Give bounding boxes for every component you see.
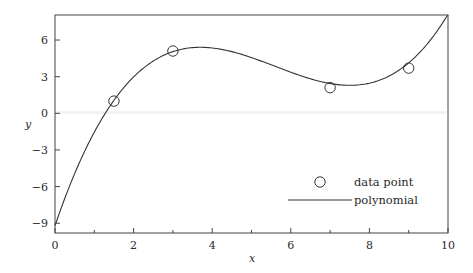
x-tick-label: 4	[209, 239, 216, 252]
x-tick-label: 6	[287, 239, 294, 252]
legend: data point polynomial	[288, 175, 418, 207]
x-axis-label: x	[249, 252, 256, 265]
x-tick-label: 8	[366, 239, 373, 252]
y-tick-label: −9	[32, 217, 48, 230]
legend-label-data-point: data point	[354, 175, 414, 189]
y-tick-label: −3	[32, 144, 48, 157]
legend-label-polynomial: polynomial	[354, 193, 418, 207]
chart: 0246810630−3−6−9 x y data point polynomi…	[0, 0, 473, 273]
data-points	[109, 46, 414, 106]
x-tick-label: 0	[52, 239, 59, 252]
legend-circle-icon	[315, 177, 325, 187]
x-tick-label: 2	[130, 239, 137, 252]
y-tick-label: 0	[41, 107, 48, 120]
y-tick-label: −6	[32, 181, 48, 194]
data-point-marker	[404, 63, 414, 73]
axis-ticks: 0246810630−3−6−9	[32, 34, 455, 252]
y-axis-label: y	[24, 118, 32, 131]
zero-band	[56, 111, 446, 114]
x-tick-label: 10	[441, 239, 455, 252]
y-tick-label: 3	[41, 71, 48, 84]
y-tick-label: 6	[41, 34, 48, 47]
